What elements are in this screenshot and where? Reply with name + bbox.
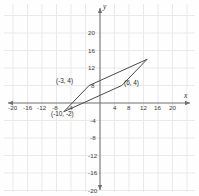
y-tick-p12: 12 xyxy=(88,65,95,71)
x-tick-n12: -12 xyxy=(37,105,46,111)
x-tick-p4: 4 xyxy=(113,105,117,111)
y-tick-n8: -8 xyxy=(90,135,96,141)
y-tick-n12: -12 xyxy=(88,153,97,159)
y-tick-p20: 20 xyxy=(88,30,95,36)
y-tick-n16: -16 xyxy=(88,170,97,176)
x-tick-p16: 16 xyxy=(154,105,161,111)
x-tick-p20: 20 xyxy=(169,105,176,111)
x-axis-label: x xyxy=(184,92,187,100)
y-tick-p8: 8 xyxy=(91,83,95,89)
y-tick-n4: -4 xyxy=(90,118,96,124)
y-tick-p16: 16 xyxy=(88,48,95,54)
coordinate-graph: -20 -16 -12 -8 -4 4 8 12 16 20 20 16 12 … xyxy=(0,0,199,196)
x-tick-n20: -20 xyxy=(8,105,17,111)
y-axis-label: y xyxy=(103,3,106,11)
x-tick-p8: 8 xyxy=(127,105,131,111)
graph-canvas xyxy=(0,0,199,196)
x-axis xyxy=(8,101,190,105)
x-tick-p12: 12 xyxy=(140,105,147,111)
y-axis xyxy=(98,8,102,190)
vertex-label-top-left: (-3, 4) xyxy=(56,78,73,84)
x-tick-n16: -16 xyxy=(23,105,32,111)
vertex-label-right: (6, 4) xyxy=(124,80,139,86)
vertex-label-bottom-left: (-10, -2) xyxy=(51,111,74,117)
y-tick-n20: -20 xyxy=(88,188,97,194)
